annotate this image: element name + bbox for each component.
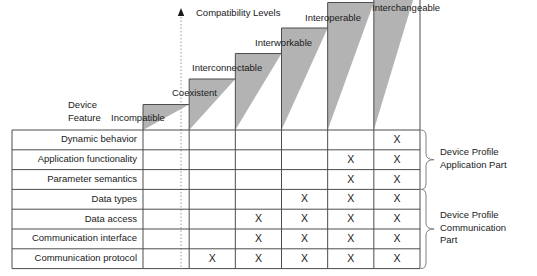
cell-mark-r1-c4: X: [328, 153, 374, 165]
axis-group: [178, 8, 184, 269]
row-label-5: Communication interface: [16, 232, 137, 243]
cell-mark-r6-c3: X: [282, 252, 328, 264]
level-label-1: Coexistent: [172, 87, 217, 99]
row-label-6: Communication protocol: [16, 252, 137, 263]
row-label-4: Data access: [16, 213, 137, 224]
cell-mark-r2-c4: X: [328, 173, 374, 185]
cell-mark-r6-c4: X: [328, 252, 374, 264]
level-label-3: Interworkable: [255, 37, 312, 49]
cell-mark-r5-c5: X: [374, 232, 420, 244]
cell-mark-r3-c4: X: [328, 192, 374, 204]
cell-mark-r4-c3: X: [282, 212, 328, 224]
cell-mark-r6-c5: X: [374, 252, 420, 264]
level-label-0: Incompatible: [111, 112, 165, 124]
level-label-4: Interoperable: [305, 12, 361, 24]
cell-mark-r3-c5: X: [374, 192, 420, 204]
cell-mark-r2-c5: X: [374, 173, 420, 185]
cell-mark-r5-c2: X: [235, 232, 281, 244]
staircase-group: [143, 0, 420, 130]
row-label-2: Parameter semantics: [16, 173, 137, 184]
level-label-2: Interconnectable: [192, 62, 262, 74]
corner-label-line1: Device: [68, 99, 97, 112]
group-bracket-label-0: Device Profile Application Part: [440, 146, 507, 171]
group-bracket-1: [421, 189, 434, 268]
compatibility-levels-diagram: Compatibility Levels Device Feature Inco…: [0, 0, 537, 276]
row-label-3: Data types: [16, 193, 137, 204]
cell-mark-r3-c3: X: [282, 192, 328, 204]
cell-mark-r1-c5: X: [374, 153, 420, 165]
cell-mark-r0-c5: X: [374, 133, 420, 145]
row-label-1: Application functionality: [16, 153, 137, 164]
cell-mark-r4-c5: X: [374, 212, 420, 224]
row-label-0: Dynamic behavior: [16, 133, 137, 144]
step-triangle-5: [374, 0, 420, 130]
corner-label-line2: Feature: [68, 112, 101, 125]
axis-title: Compatibility Levels: [196, 7, 280, 19]
cell-mark-r6-c1: X: [189, 252, 235, 264]
axis-arrow-icon: [178, 8, 184, 16]
group-bracket-label-1: Device Profile Communication Part: [440, 209, 506, 247]
level-label-5: Interchangeable: [372, 2, 440, 14]
cell-mark-r5-c4: X: [328, 232, 374, 244]
group-bracket-0: [421, 130, 434, 189]
cell-mark-r6-c2: X: [235, 252, 281, 264]
group-brackets: [421, 130, 434, 269]
cell-mark-r4-c4: X: [328, 212, 374, 224]
cell-mark-r4-c2: X: [235, 212, 281, 224]
cell-mark-r5-c3: X: [282, 232, 328, 244]
